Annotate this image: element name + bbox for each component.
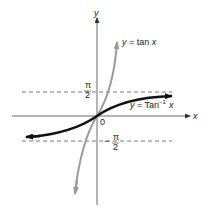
neg-pi-over-2-denominator: 2: [113, 142, 118, 152]
neg-pi-over-2-sign: −: [104, 136, 109, 146]
tan-label-rest: = tan: [127, 37, 152, 47]
y-axis-label: y: [93, 8, 99, 18]
origin-label: 0: [100, 117, 105, 127]
arctan-label-x: x: [168, 100, 174, 110]
pi-over-2-numerator: π: [85, 80, 91, 90]
tan-label-x: x: [151, 37, 157, 47]
arctan-curve-label: y = Tan−1x: [129, 99, 174, 110]
arctan-label-rest: = Tan: [135, 100, 160, 110]
neg-pi-over-2-numerator: π: [113, 132, 119, 142]
tan-curve-lower-arrow: [75, 180, 77, 194]
arctan-curve-left-arrow: [26, 136, 40, 137]
arctan-label-sup: −1: [159, 99, 167, 105]
x-axis-label: x: [192, 111, 198, 121]
chart-canvas: y x 0 π 2 − π 2 y = tan x y = Tan−1x: [0, 0, 204, 210]
pi-over-2-denominator: 2: [85, 90, 90, 100]
tan-curve-label: y = tan x: [121, 37, 157, 47]
